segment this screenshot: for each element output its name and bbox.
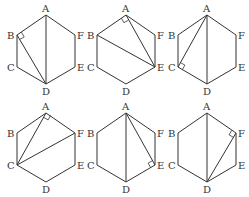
label-E: E [77, 62, 84, 73]
label-B: B [168, 30, 175, 41]
label-E: E [157, 62, 164, 73]
label-E: E [238, 160, 245, 171]
label-D: D [122, 184, 130, 195]
label-E: E [77, 160, 84, 171]
hexagon-outline [97, 15, 155, 84]
label-F: F [77, 128, 84, 139]
label-C: C [168, 160, 176, 171]
segment-DF [207, 133, 236, 182]
label-D: D [42, 86, 50, 97]
label-C: C [87, 160, 95, 171]
label-B: B [168, 128, 175, 139]
label-E: E [238, 62, 245, 73]
label-B: B [7, 30, 14, 41]
label-F: F [157, 128, 164, 139]
hexagon-panel-3: A B C D E F [168, 3, 245, 97]
hexagon-panel-2: A B C D E F [87, 3, 164, 97]
label-D: D [42, 184, 50, 195]
segment-AC [178, 15, 207, 67]
hexagon-outline [17, 113, 75, 182]
label-A: A [202, 3, 211, 14]
hexagon-panel-1: A B C D E F [7, 3, 84, 97]
label-A: A [41, 3, 50, 14]
label-F: F [238, 128, 245, 139]
label-B: B [87, 30, 94, 41]
label-B: B [7, 128, 14, 139]
label-A: A [121, 3, 130, 14]
hexagon-figures: A B C D E F A B C D E F A B C D E F A [0, 0, 249, 197]
label-D: D [203, 184, 211, 195]
label-F: F [77, 30, 84, 41]
segment-BD [17, 35, 46, 84]
label-D: D [203, 86, 211, 97]
label-C: C [7, 160, 15, 171]
label-F: F [238, 30, 245, 41]
label-D: D [122, 86, 130, 97]
hexagon-panel-6: A B C D E F [168, 101, 245, 195]
label-E: E [157, 160, 164, 171]
hexagon-panel-4: A B C D E F [7, 101, 84, 195]
label-A: A [121, 101, 130, 112]
label-A: A [202, 101, 211, 112]
right-angle-marker [121, 18, 128, 23]
right-angle-marker [20, 32, 24, 39]
label-B: B [87, 128, 94, 139]
hexagon-panel-5: A B C D E F [87, 101, 164, 195]
label-A: A [41, 101, 50, 112]
label-C: C [7, 62, 15, 73]
label-F: F [157, 30, 164, 41]
label-C: C [87, 62, 95, 73]
label-C: C [168, 62, 176, 73]
segment-AE [126, 113, 155, 165]
